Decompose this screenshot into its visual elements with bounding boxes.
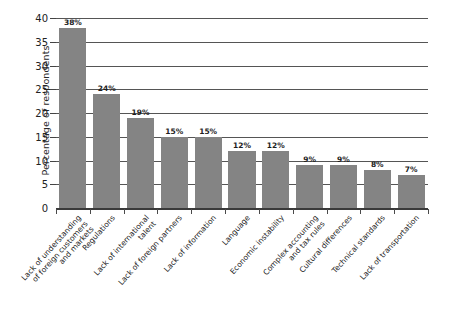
bar[interactable]: 9% xyxy=(330,165,357,208)
gridline xyxy=(56,18,428,19)
y-axis-tick-labels: 4035302520151050 xyxy=(16,18,48,208)
bar-value-label: 9% xyxy=(303,155,316,164)
bar[interactable]: 15% xyxy=(195,137,222,208)
bar-value-label: 8% xyxy=(371,160,384,169)
bar-value-label: 19% xyxy=(132,108,150,117)
bar[interactable]: 24% xyxy=(93,94,120,208)
y-tick-label: 25 xyxy=(18,84,48,95)
y-tick-label: 40 xyxy=(18,13,48,24)
y-tick-label: 5 xyxy=(18,179,48,190)
y-tick-label: 20 xyxy=(18,108,48,119)
bar-value-label: 9% xyxy=(337,155,350,164)
bar[interactable]: 9% xyxy=(296,165,323,208)
bar[interactable]: 12% xyxy=(228,151,255,208)
y-tick-label: 15 xyxy=(18,131,48,142)
bar-value-label: 15% xyxy=(165,127,183,136)
bar[interactable]: 15% xyxy=(161,137,188,208)
bar-chart: Percentage of respondents 40353025201510… xyxy=(0,0,449,314)
y-tick-label: 10 xyxy=(18,155,48,166)
bar[interactable]: 7% xyxy=(398,175,425,208)
bar-value-label: 7% xyxy=(405,165,418,174)
x-tick-mark xyxy=(428,209,429,214)
gridline xyxy=(56,42,428,43)
bar-value-label: 12% xyxy=(233,141,251,150)
bar-value-label: 12% xyxy=(267,141,285,150)
bar[interactable]: 8% xyxy=(364,170,391,208)
plot-area: 38%24%19%15%15%12%12%9%9%8%7% xyxy=(56,18,428,208)
bar[interactable]: 19% xyxy=(127,118,154,208)
y-tick-label: 0 xyxy=(18,203,48,214)
x-axis-category-labels: Lack of understanding of foreign custome… xyxy=(56,214,428,314)
bar-value-label: 15% xyxy=(199,127,217,136)
gridline xyxy=(56,66,428,67)
y-tick-label: 35 xyxy=(18,36,48,47)
y-tick-label: 30 xyxy=(18,60,48,71)
bar-value-label: 38% xyxy=(64,18,82,27)
bar[interactable]: 12% xyxy=(262,151,289,208)
bar[interactable]: 38% xyxy=(59,28,86,209)
bar-value-label: 24% xyxy=(98,84,116,93)
